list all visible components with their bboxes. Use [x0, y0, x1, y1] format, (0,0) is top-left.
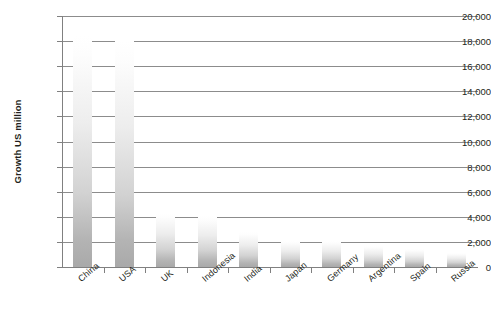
y-axis-title: Growth US million: [12, 77, 23, 207]
bar-chart: Growth US million 20,00018,00016,00014,0…: [0, 0, 491, 321]
x-tick-mark: [353, 267, 354, 273]
x-tick-mark: [228, 267, 229, 273]
x-tick-mark: [436, 267, 437, 273]
x-tick-mark: [187, 267, 188, 273]
bars-group: [62, 16, 477, 267]
x-tick-label: UK: [159, 268, 175, 284]
x-tick-mark: [270, 267, 271, 273]
bar: [115, 41, 134, 267]
bar: [198, 216, 217, 267]
y-tick-mark: [57, 267, 62, 268]
bar: [156, 213, 175, 267]
x-tick-mark: [311, 267, 312, 273]
bar: [73, 36, 92, 267]
x-tick-mark: [145, 267, 146, 273]
x-tick-mark: [394, 267, 395, 273]
bar: [239, 232, 258, 267]
x-tick-mark: [104, 267, 105, 273]
